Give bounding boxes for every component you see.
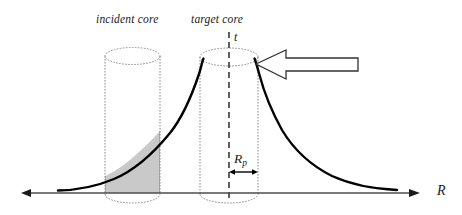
r-axis-right-arrowhead — [409, 189, 420, 197]
incident-beam-block-arrow — [256, 50, 358, 79]
diagram-canvas — [0, 0, 462, 215]
implantation-profile-curve — [58, 59, 397, 191]
r-axis — [21, 189, 420, 197]
incident-core-bottom-ellipse — [105, 194, 160, 203]
profile-curve-left-branch — [58, 59, 204, 191]
label-axis-r: R — [437, 184, 446, 198]
label-projected-range: Rp — [234, 152, 247, 168]
label-incident-core: incident core — [96, 14, 159, 26]
incident-core-top-ellipse — [105, 48, 160, 65]
r-axis-left-arrowhead — [21, 189, 31, 197]
label-rp-subscript: p — [242, 158, 247, 168]
label-rp-symbol: R — [234, 151, 242, 166]
label-target-core: target core — [191, 14, 243, 26]
rp-measurement-arrow — [229, 169, 258, 174]
implantation-profile-diagram: incident core target core t Rp R — [0, 0, 462, 215]
profile-curve-right-branch — [255, 59, 398, 191]
label-thickness-t: t — [234, 31, 237, 43]
